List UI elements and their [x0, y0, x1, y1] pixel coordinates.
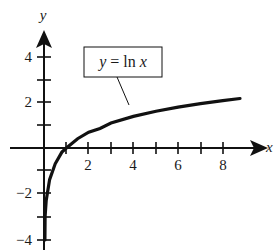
y-axis-label: y [38, 7, 47, 23]
y-tick-label-4: 4 [25, 49, 33, 65]
x-tick-label-8: 8 [219, 157, 227, 173]
y-tick-label-neg2: −2 [16, 185, 32, 201]
x-tick-label-4: 4 [129, 157, 137, 173]
x-tick-label-2: 2 [84, 157, 92, 173]
x-tick-label-6: 6 [174, 157, 182, 173]
y-tick-label-neg4: −4 [16, 232, 32, 248]
ln-graph: 2 4 6 8 4 2 −2 −4 y x y = ln x [0, 0, 274, 251]
y-tick-label-2: 2 [25, 94, 33, 110]
equation-label: y = ln x [97, 53, 147, 71]
annotation-leader [117, 77, 129, 105]
ln-curve [45, 99, 240, 241]
x-axis-label: x [265, 139, 273, 155]
